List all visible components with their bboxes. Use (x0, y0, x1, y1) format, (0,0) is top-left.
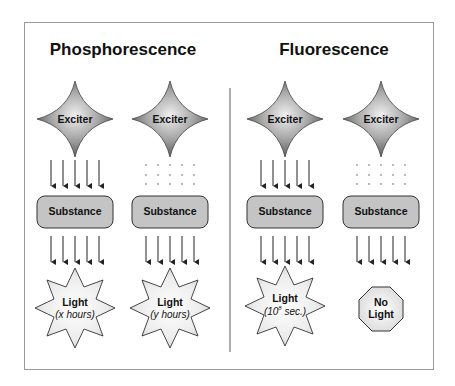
excitation-arrows (261, 160, 309, 186)
light-label: Light (272, 292, 298, 304)
substance-label-2: Substance (143, 206, 196, 218)
emission-arrows (146, 236, 194, 262)
substance-label-1: Substance (48, 206, 101, 218)
exciter-label-1: Exciter (57, 114, 92, 126)
diagram-graphics (0, 0, 455, 386)
no-light-line1: No (368, 297, 394, 309)
no-excitation-dots (145, 164, 195, 185)
exciter-label-2: Exciter (152, 114, 187, 126)
emission-arrows (51, 236, 99, 262)
emission-arrows (261, 236, 309, 262)
light-duration: (x hours) (55, 308, 94, 319)
excitation-arrows (51, 160, 99, 186)
light-duration: (y hours) (150, 308, 189, 319)
no-light-line2: Light (368, 309, 394, 321)
light-label: Light (62, 296, 88, 308)
exciter-label-4: Exciter (363, 114, 398, 126)
light-duration: (108 sec.) (264, 305, 306, 317)
substance-label-3: Substance (258, 206, 311, 218)
no-excitation-dots (356, 164, 406, 185)
light-output-2: Light (y hours) (150, 297, 189, 320)
light-output-1: Light (x hours) (55, 297, 94, 320)
exciter-label-3: Exciter (267, 114, 302, 126)
substance-label-4: Substance (354, 206, 407, 218)
light-label: Light (157, 296, 183, 308)
emission-arrows (357, 236, 405, 262)
light-output-3: Light (108 sec.) (264, 293, 306, 317)
no-light-output: No Light (368, 297, 394, 320)
